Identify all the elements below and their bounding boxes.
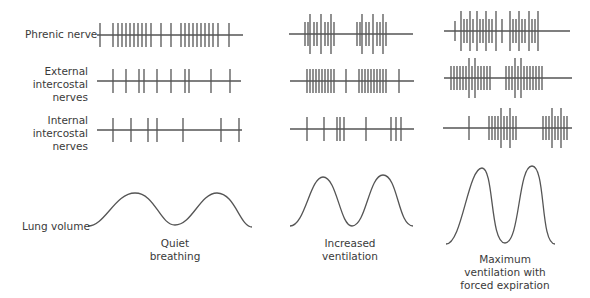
label-line: Internal xyxy=(18,114,88,127)
caption-line: breathing xyxy=(130,250,220,263)
label-line: nerves xyxy=(18,140,88,153)
maximum-ventilation-volume xyxy=(446,166,555,244)
caption-line: Increased xyxy=(305,237,395,250)
caption-quiet-breathing: Quiet breathing xyxy=(130,237,220,263)
spike-train-phrenic-nerve xyxy=(289,14,413,54)
label-internal-intercostal-nerves: Internal intercostal nerves xyxy=(18,114,88,153)
caption-line: Quiet xyxy=(130,237,220,250)
lung-volume-curves xyxy=(88,166,555,244)
caption-increased-ventilation: Increased ventilation xyxy=(305,237,395,263)
column-increased-ventilation xyxy=(289,14,414,141)
spike-train-external-intercostal xyxy=(444,58,572,98)
caption-maximum-ventilation: Maximum ventilation with forced expirati… xyxy=(440,253,570,292)
column-quiet-breathing xyxy=(97,23,243,142)
label-line: nerves xyxy=(18,91,88,104)
label-lung-volume: Lung volume xyxy=(22,220,90,233)
label-line: intercostal xyxy=(18,127,88,140)
spike-train-external-intercostal xyxy=(97,69,241,93)
quiet-breathing-volume xyxy=(88,193,252,227)
spike-train-internal-intercostal xyxy=(290,117,414,141)
caption-line: Maximum xyxy=(440,253,570,266)
increased-ventilation-volume xyxy=(290,175,413,226)
label-external-intercostal-nerves: External intercostal nerves xyxy=(18,65,88,104)
caption-line: forced expiration xyxy=(440,279,570,292)
label-phrenic-nerve: Phrenic nerve xyxy=(25,28,97,41)
caption-line: ventilation with xyxy=(440,266,570,279)
spike-train-phrenic-nerve xyxy=(444,11,570,51)
spike-trains xyxy=(97,11,572,148)
spike-train-phrenic-nerve xyxy=(97,23,243,47)
label-line: intercostal xyxy=(18,78,88,91)
spike-train-internal-intercostal xyxy=(97,118,242,142)
label-line: External xyxy=(18,65,88,78)
spike-train-external-intercostal xyxy=(290,69,414,93)
spike-train-internal-intercostal xyxy=(443,108,572,148)
column-maximum-ventilation xyxy=(443,11,572,148)
caption-line: ventilation xyxy=(305,250,395,263)
